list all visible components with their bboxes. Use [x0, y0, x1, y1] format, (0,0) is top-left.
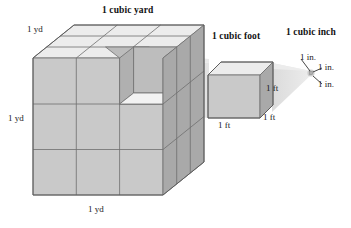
cubic-inch-cube — [307, 69, 314, 76]
label-foot-bottom-edge: 1 ft — [218, 120, 230, 130]
heading-cubic-yard: 1 cubic yard — [102, 5, 153, 15]
heading-cubic-foot: 1 cubic foot — [212, 31, 260, 41]
label-inch-edge-1: 1 in. — [300, 52, 316, 62]
label-foot-bottom-right-edge: 1 ft — [263, 112, 275, 122]
foot-cube-front-face — [208, 75, 260, 118]
label-yard-bottom-edge: 1 yd — [88, 204, 104, 214]
label-inch-edge-2: 1 in. — [318, 62, 334, 72]
label-yard-top-edge: 1 yd — [27, 24, 43, 34]
cubic-foot-cube — [208, 62, 273, 118]
label-inch-edge-3: 1 in. — [318, 79, 334, 89]
label-yard-left-edge: 1 yd — [8, 113, 24, 123]
heading-cubic-inch: 1 cubic inch — [286, 27, 336, 37]
label-foot-right-edge: 1 ft — [266, 83, 278, 93]
cubic-yard-cube — [33, 25, 204, 195]
